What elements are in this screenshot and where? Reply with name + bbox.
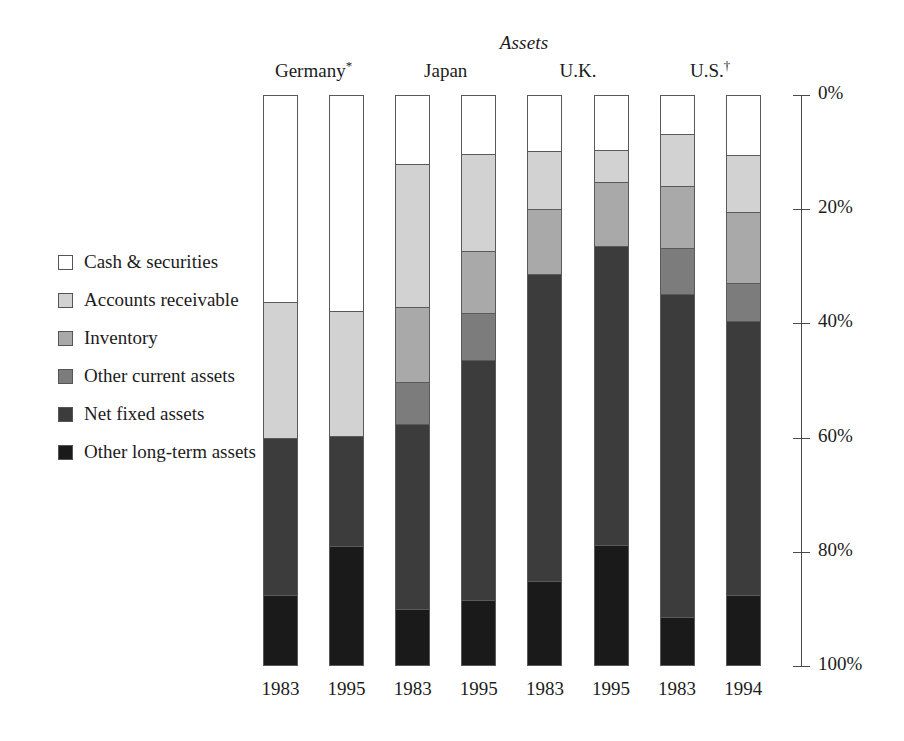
- bar-segment: [660, 294, 695, 618]
- chart-page: Assets 19831995198319951983199519831994G…: [0, 0, 904, 741]
- legend-item-label: Other long-term assets: [84, 441, 256, 463]
- bar-segment: [395, 95, 430, 164]
- bar-column[interactable]: [726, 95, 761, 666]
- bar-segment: [263, 595, 298, 666]
- legend-item[interactable]: Inventory: [58, 319, 256, 357]
- bar-column[interactable]: [527, 95, 562, 666]
- y-axis-tick-label: 20%: [818, 196, 853, 218]
- group-label-text: Japan: [424, 60, 467, 81]
- bar-segment: [594, 95, 629, 150]
- legend-swatch-icon: [58, 369, 73, 384]
- legend-item[interactable]: Other long-term assets: [58, 433, 256, 471]
- bar-segment: [527, 274, 562, 581]
- y-axis-line: [801, 95, 802, 666]
- y-axis-tick: [793, 666, 810, 667]
- bar-segment: [461, 600, 496, 666]
- bar-segment: [726, 95, 761, 155]
- bar-column[interactable]: [395, 95, 430, 666]
- legend-swatch-icon: [58, 255, 73, 270]
- legend-swatch-icon: [58, 407, 73, 422]
- bar-segment: [594, 246, 629, 545]
- bar-segment: [395, 424, 430, 609]
- legend-item-label: Inventory: [84, 327, 158, 349]
- bar-segment: [329, 95, 364, 311]
- x-axis-tick-label: 1983: [383, 678, 443, 700]
- bar-segment: [594, 182, 629, 246]
- legend-item[interactable]: Other current assets: [58, 357, 256, 395]
- bar-segment: [660, 617, 695, 666]
- bar-segment: [461, 313, 496, 360]
- bar-column[interactable]: [263, 95, 298, 666]
- bar-segment: [527, 95, 562, 151]
- y-axis-tick-label: 100%: [818, 653, 862, 675]
- bar-column[interactable]: [594, 95, 629, 666]
- chart-legend: Cash & securitiesAccounts receivableInve…: [58, 243, 256, 471]
- x-axis-tick-label: 1983: [251, 678, 311, 700]
- bar-segment: [461, 360, 496, 600]
- y-axis-tick-label: 80%: [818, 539, 853, 561]
- bar-segment: [395, 164, 430, 307]
- x-axis-tick-label: 1995: [581, 678, 641, 700]
- bar-segment: [461, 154, 496, 251]
- bar-segment: [726, 155, 761, 212]
- legend-swatch-icon: [58, 445, 73, 460]
- bar-segment: [527, 209, 562, 274]
- group-label-text: Germany: [275, 60, 346, 81]
- bar-segment: [527, 151, 562, 209]
- x-axis-tick-label: 1994: [713, 678, 773, 700]
- bar-segment: [660, 134, 695, 186]
- group-label-text: U.S.: [690, 60, 724, 81]
- group-label-text: U.K.: [559, 60, 596, 81]
- legend-item-label: Other current assets: [84, 365, 235, 387]
- legend-swatch-icon: [58, 331, 73, 346]
- group-label: U.S.†: [610, 60, 810, 82]
- legend-item-label: Accounts receivable: [84, 289, 239, 311]
- bar-segment: [527, 581, 562, 666]
- bar-segment: [329, 546, 364, 666]
- bar-segment: [594, 150, 629, 182]
- bar-column[interactable]: [329, 95, 364, 666]
- y-axis-tick-label: 60%: [818, 425, 853, 447]
- bar-segment: [395, 382, 430, 424]
- legend-item-label: Cash & securities: [84, 251, 218, 273]
- x-axis-tick-label: 1983: [647, 678, 707, 700]
- x-axis-tick-label: 1995: [317, 678, 377, 700]
- bar-segment: [461, 251, 496, 313]
- bar-segment: [263, 95, 298, 302]
- legend-item[interactable]: Accounts receivable: [58, 281, 256, 319]
- legend-swatch-icon: [58, 293, 73, 308]
- x-axis-tick-label: 1983: [515, 678, 575, 700]
- bar-segment: [263, 438, 298, 595]
- bar-segment: [594, 545, 629, 666]
- group-label-footnote-marker: †: [724, 58, 731, 73]
- bar-segment: [395, 609, 430, 666]
- legend-item[interactable]: Cash & securities: [58, 243, 256, 281]
- bar-segment: [660, 248, 695, 294]
- bar-segment: [726, 321, 761, 595]
- bar-segment: [660, 95, 695, 134]
- legend-item[interactable]: Net fixed assets: [58, 395, 256, 433]
- bar-column[interactable]: [660, 95, 695, 666]
- x-axis-tick-label: 1995: [449, 678, 509, 700]
- bar-segment: [726, 283, 761, 320]
- bar-segment: [329, 311, 364, 435]
- bar-segment: [461, 95, 496, 154]
- bar-segment: [726, 212, 761, 283]
- bar-segment: [660, 186, 695, 248]
- bar-segment: [395, 307, 430, 382]
- bar-segment: [726, 595, 761, 666]
- bar-segment: [329, 436, 364, 546]
- bar-segment: [263, 302, 298, 437]
- legend-item-label: Net fixed assets: [84, 403, 204, 425]
- y-axis-tick-label: 40%: [818, 310, 853, 332]
- y-axis-tick-label: 0%: [818, 82, 843, 104]
- bar-column[interactable]: [461, 95, 496, 666]
